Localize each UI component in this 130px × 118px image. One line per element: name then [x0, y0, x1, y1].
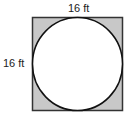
left-side-length-label: 16 ft [3, 58, 24, 69]
top-side-length-label: 16 ft [68, 3, 89, 14]
inscribed-circle [33, 18, 123, 111]
